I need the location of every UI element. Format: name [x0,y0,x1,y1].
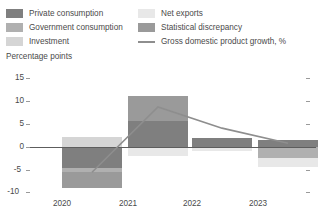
legend-swatch-icon [6,23,23,32]
legend-column-right: Net exports Statistical discrepancy Gros… [138,7,286,49]
legend-item-private-consumption: Private consumption [6,7,123,20]
legend-swatch-icon [138,9,155,18]
chart-legend: Private consumption Government consumpti… [0,0,320,48]
legend-swatch-icon [6,37,23,46]
y-axis-title: Percentage points [6,52,72,61]
x-tick-label-2022: 2022 [172,199,212,208]
legend-label: Net exports [161,9,203,18]
legend-label: Government consumption [29,23,123,32]
legend-swatch-icon [138,23,155,32]
legend-swatch-icon [6,9,23,18]
plot-area: 15 10 5 0 -5 -10 2020 2021 2022 2023 [0,66,320,211]
legend-label: Private consumption [29,9,103,18]
gdp-growth-line [0,66,320,211]
x-tick-label-2023: 2023 [238,199,278,208]
gdp-growth-polyline [92,107,288,172]
legend-label: Statistical discrepancy [161,23,242,32]
legend-item-government-consumption: Government consumption [6,21,123,34]
legend-item-statistical-discrepancy: Statistical discrepancy [138,21,286,34]
x-tick-label-2021: 2021 [108,199,148,208]
legend-line-icon [138,37,155,46]
chart-container: Private consumption Government consumpti… [0,0,320,211]
legend-item-net-exports: Net exports [138,7,286,20]
legend-column-left: Private consumption Government consumpti… [6,7,123,49]
x-tick-label-2020: 2020 [42,199,82,208]
legend-label: Gross domestic product growth, % [161,37,286,46]
legend-item-gdp-growth: Gross domestic product growth, % [138,35,286,48]
legend-label: Investment [29,37,69,46]
legend-item-investment: Investment [6,35,123,48]
